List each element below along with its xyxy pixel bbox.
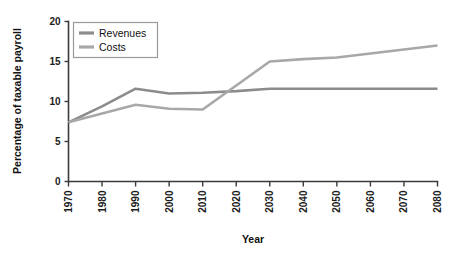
- line-chart: Percentage of taxable payroll 05101520 1…: [0, 0, 476, 253]
- y-tick-label: 0: [55, 176, 61, 187]
- x-tick-label: 1980: [97, 190, 108, 213]
- x-tick-label: 2080: [432, 190, 443, 213]
- x-tick-label: 2060: [365, 190, 376, 213]
- x-tick-label: 2070: [398, 190, 409, 213]
- x-tick-label: 2020: [231, 190, 242, 213]
- y-tick-label: 10: [49, 96, 61, 107]
- x-tick-label: 2010: [197, 190, 208, 213]
- y-tick-label: 20: [49, 16, 61, 27]
- x-tick-label: 2040: [298, 190, 309, 213]
- chart-container: Percentage of taxable payroll 05101520 1…: [0, 0, 476, 253]
- chart-legend: Revenues Costs: [74, 23, 158, 58]
- x-tick-label: 2050: [331, 190, 342, 213]
- y-axis-title: Percentage of taxable payroll: [11, 28, 23, 174]
- x-axis-ticks: 1970198019902000201020202030204020502060…: [63, 182, 443, 213]
- x-tick-label: 2030: [264, 190, 275, 213]
- x-tick-label: 2000: [164, 190, 175, 213]
- y-axis-ticks: 05101520: [49, 16, 68, 187]
- y-tick-label: 5: [55, 136, 61, 147]
- x-tick-label: 1970: [63, 190, 74, 213]
- x-tick-label: 1990: [130, 190, 141, 213]
- legend-label-revenues: Revenues: [99, 27, 146, 39]
- y-tick-label: 15: [49, 56, 61, 67]
- legend-label-costs: Costs: [99, 41, 126, 53]
- x-axis-title: Year: [242, 233, 264, 245]
- series-line-revenues: [69, 89, 438, 123]
